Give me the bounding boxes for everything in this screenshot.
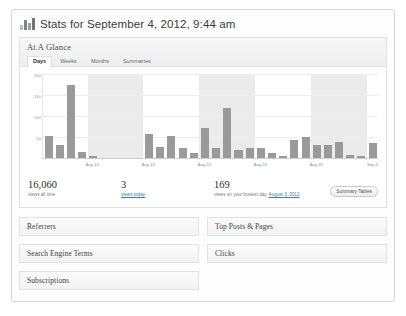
chart-bar[interactable] <box>302 137 310 157</box>
chart-bar-cell <box>177 74 188 158</box>
tab-summaries[interactable]: Summaries <box>117 56 157 67</box>
stat-today-value: 3 <box>121 179 214 191</box>
at-a-glance-header: At A Glance Days Weeks Months Summaries <box>20 38 386 67</box>
tab-weeks[interactable]: Weeks <box>54 56 83 67</box>
chart-bar-cell <box>132 74 143 158</box>
chart-bar-cell <box>233 74 244 158</box>
chart-x-tick-label: Aug 30 <box>310 162 323 167</box>
panel-referrers-title: Referrers <box>27 222 56 231</box>
stats-window: Stats for September 4, 2012, 9:44 am At … <box>11 9 395 302</box>
chart-bar[interactable] <box>212 148 220 157</box>
stat-today-label: views today <box>121 192 214 199</box>
chart-bar-cell <box>211 74 222 158</box>
stat-busiest-value: 169 <box>214 179 334 191</box>
chart-bar[interactable] <box>223 108 231 158</box>
chart-bar-cell <box>244 74 255 158</box>
modules-column-right: Top Posts & Pages Clicks <box>207 217 387 290</box>
chart-bar[interactable] <box>369 143 377 157</box>
at-a-glance-title: At A Glance <box>27 42 379 52</box>
panel-top-posts-pages[interactable]: Top Posts & Pages <box>207 217 387 236</box>
period-tabs: Days Weeks Months Summaries <box>27 56 379 67</box>
chart-bar-cell <box>110 74 121 158</box>
chart-bar-cell <box>155 74 166 158</box>
chart-bar[interactable] <box>190 153 198 157</box>
chart-bar[interactable] <box>89 156 97 158</box>
chart-bar-cell <box>322 74 333 158</box>
chart-bar-cell <box>77 74 88 158</box>
panel-search-engine-terms-title: Search Engine Terms <box>27 249 93 258</box>
chart-bar-cell <box>300 74 311 158</box>
page-title: Stats for September 4, 2012, 9:44 am <box>40 18 235 30</box>
chart-bar-cell <box>121 74 132 158</box>
window-titlebar: Stats for September 4, 2012, 9:44 am <box>12 10 394 37</box>
chart-bar[interactable] <box>145 134 153 157</box>
chart-bar[interactable] <box>279 156 287 158</box>
chart-bar[interactable] <box>246 148 254 157</box>
chart-bar[interactable] <box>357 156 365 158</box>
chart-y-tick-label: 100 <box>34 114 41 119</box>
panel-clicks[interactable]: Clicks <box>207 244 387 263</box>
panel-referrers[interactable]: Referrers <box>19 217 199 236</box>
chart-bars <box>43 74 378 158</box>
chart-x-tick-label: Aug 20 <box>198 162 211 167</box>
chart-bar[interactable] <box>313 145 321 158</box>
modules-grid: Referrers Search Engine Terms Subscripti… <box>12 208 394 290</box>
panel-subscriptions[interactable]: Subscriptions <box>19 271 199 290</box>
chart-bar-cell <box>65 74 76 158</box>
tab-days[interactable]: Days <box>27 56 52 67</box>
chart-bar[interactable] <box>290 140 298 158</box>
chart-bar[interactable] <box>156 147 164 157</box>
chart-bar[interactable] <box>201 128 209 157</box>
chart-bar[interactable] <box>45 136 53 158</box>
stat-busiest-label-prefix: views on your busiest day, <box>214 192 269 197</box>
panel-subscriptions-title: Subscriptions <box>27 276 69 285</box>
chart-bar[interactable] <box>179 148 187 157</box>
chart-bar-cell <box>311 74 322 158</box>
chart-bar-cell <box>99 74 110 158</box>
chart-bar[interactable] <box>324 145 332 158</box>
chart-y-tick-label: 200 <box>34 72 41 77</box>
chart-bar-cell <box>255 74 266 158</box>
tab-months[interactable]: Months <box>85 56 115 67</box>
stat-all-time-label: views all time <box>28 192 121 199</box>
views-bar-chart[interactable]: 20015010050 <box>42 74 378 159</box>
modules-column-left: Referrers Search Engine Terms Subscripti… <box>19 217 199 290</box>
stat-busiest-day: 169 views on your busiest day, August 3,… <box>214 179 334 199</box>
chart-bar[interactable] <box>78 152 86 158</box>
chart-bar-cell <box>345 74 356 158</box>
stat-busiest-label: views on your busiest day, August 3, 201… <box>214 192 334 199</box>
stat-all-time-value: 16,060 <box>28 179 121 191</box>
chart-bar-cell <box>166 74 177 158</box>
summary-tables-button[interactable]: Summary Tables <box>330 186 378 197</box>
chart-bar-cell <box>88 74 99 158</box>
chart-bar[interactable] <box>335 142 343 158</box>
chart-bar-cell <box>367 74 378 158</box>
chart-bar[interactable] <box>56 145 64 158</box>
chart-bar[interactable] <box>67 85 75 157</box>
busiest-day-link[interactable]: August 3, 2012 <box>269 192 300 197</box>
panel-search-engine-terms[interactable]: Search Engine Terms <box>19 244 199 263</box>
chart-bar-cell <box>43 74 54 158</box>
chart-container: 20015010050 Aug 10Aug 15Aug 20Aug 25Aug … <box>20 67 386 173</box>
chart-bar-cell <box>278 74 289 158</box>
views-today-link[interactable]: views today <box>121 192 145 197</box>
chart-bar[interactable] <box>268 153 276 157</box>
panel-clicks-title: Clicks <box>215 249 235 258</box>
chart-bar[interactable] <box>234 150 242 158</box>
chart-x-tick-label: Aug 15 <box>142 162 155 167</box>
chart-bar-cell <box>333 74 344 158</box>
chart-bar-cell <box>54 74 65 158</box>
stat-today: 3 views today <box>121 179 214 199</box>
chart-bar[interactable] <box>346 155 354 158</box>
chart-bar[interactable] <box>257 148 265 157</box>
chart-bar-cell <box>199 74 210 158</box>
chart-y-tick-label: 150 <box>34 93 41 98</box>
screenshot-root: Stats for September 4, 2012, 9:44 am At … <box>0 0 406 316</box>
summary-stats-row: 16,060 views all time 3 views today 169 … <box>20 173 386 208</box>
chart-x-tick-label: Aug 25 <box>254 162 267 167</box>
bar-chart-icon <box>20 17 34 30</box>
chart-bar-cell <box>144 74 155 158</box>
panel-top-posts-pages-title: Top Posts & Pages <box>215 222 273 231</box>
chart-bar[interactable] <box>167 136 175 158</box>
chart-bar-cell <box>266 74 277 158</box>
